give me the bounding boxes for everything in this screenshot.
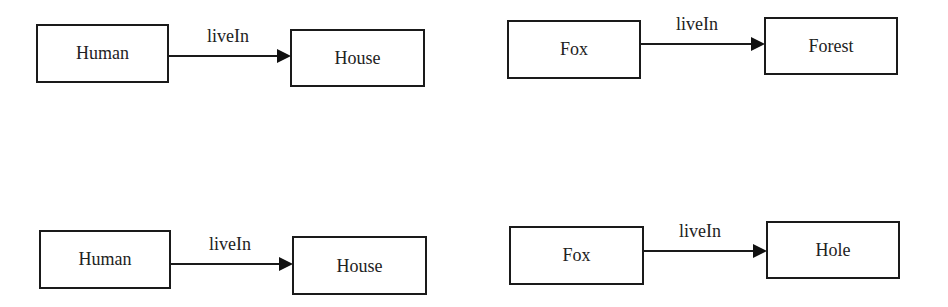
node-target[interactable]: Forest [765, 18, 897, 74]
node-label: Human [79, 249, 132, 269]
arrowhead-icon [753, 244, 767, 258]
edge[interactable]: liveIn [640, 14, 765, 51]
node-source[interactable]: Fox [508, 21, 640, 78]
graph-bottom-right: Fox liveIn Hole [510, 221, 899, 284]
edge[interactable]: liveIn [168, 26, 291, 63]
node-label: House [337, 256, 383, 276]
edge-label: liveIn [207, 26, 249, 46]
node-label: Fox [560, 39, 588, 59]
graph-bottom-left: Human liveIn House [40, 231, 426, 294]
node-label: Human [76, 43, 129, 63]
node-source[interactable]: Human [37, 25, 168, 82]
edge[interactable]: liveIn [643, 221, 767, 258]
edge-label: liveIn [209, 234, 251, 254]
node-target[interactable]: House [291, 30, 424, 86]
graph-top-left: Human liveIn House [37, 25, 424, 86]
arrowhead-icon [279, 257, 293, 271]
arrowhead-icon [751, 37, 765, 51]
node-label: Hole [816, 240, 851, 260]
arrowhead-icon [277, 49, 291, 63]
node-source[interactable]: Human [40, 231, 170, 288]
node-label: Forest [809, 36, 854, 56]
node-label: House [335, 48, 381, 68]
edge-label: liveIn [676, 14, 718, 34]
node-target[interactable]: Hole [767, 222, 899, 278]
graph-top-right: Fox liveIn Forest [508, 14, 897, 78]
node-source[interactable]: Fox [510, 227, 643, 284]
edge[interactable]: liveIn [170, 234, 293, 271]
node-target[interactable]: House [293, 237, 426, 294]
node-label: Fox [562, 245, 590, 265]
edge-label: liveIn [679, 221, 721, 241]
diagram-canvas: Human liveIn House Fox liveIn Forest [0, 0, 948, 307]
